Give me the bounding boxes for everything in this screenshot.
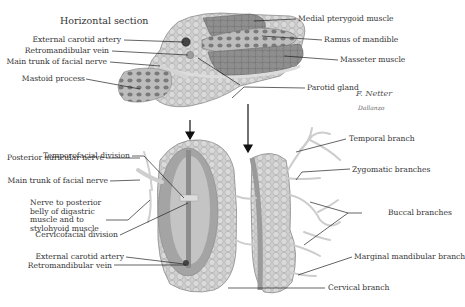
- label-retromandibular-top: Retromandibular vein: [25, 47, 109, 56]
- label-retromandibular-bottom: Retromandibular vein: [28, 262, 112, 271]
- label-temporal-branch: Temporal branch: [349, 135, 415, 144]
- label-external-carotid-top: External carotid artery: [32, 36, 121, 45]
- signature: F. Netter: [356, 90, 392, 99]
- label-zygomatic-branches: Zygomatic branches: [352, 166, 430, 175]
- label-medial-pterygoid: Medial pterygoid muscle: [298, 15, 394, 24]
- figure-title: Horizontal section: [60, 17, 148, 26]
- label-masseter: Masseter muscle: [340, 56, 405, 65]
- label-cervicofacial: Cervicofacial division: [35, 231, 118, 240]
- label-digastric-nerve: Nerve to posterior belly of digastric mu…: [30, 199, 114, 233]
- superficial-lobe: [251, 153, 296, 292]
- label-cervical-branch: Cervical branch: [328, 284, 389, 293]
- label-buccal-branches: Buccal branches: [388, 209, 452, 218]
- label-ramus: Ramus of mandible: [324, 36, 398, 45]
- label-mastoid: Mastoid process: [22, 75, 85, 84]
- signature-2: Dallanzo: [358, 104, 384, 113]
- deep-lobe-block: [157, 140, 236, 292]
- label-facial-trunk-top: Main trunk of facial nerve: [7, 58, 108, 67]
- label-facial-trunk-bottom: Main trunk of facial nerve: [8, 177, 109, 186]
- horizontal-section: [118, 13, 305, 107]
- label-posterior-auricular: Posterior auricular nerve: [7, 154, 104, 163]
- label-parotid: Parotid gland: [307, 84, 359, 93]
- label-marginal-mandibular: Marginal mandibular branch: [354, 253, 465, 262]
